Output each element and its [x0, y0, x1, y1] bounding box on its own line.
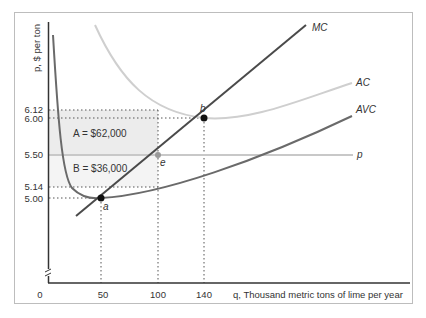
y-tick-5-14: 5.14: [25, 181, 44, 192]
x-tick-0: 0: [37, 289, 42, 300]
avc-label: AVC: [355, 104, 377, 115]
p-label: p: [356, 149, 363, 160]
point-a-label: a: [103, 201, 109, 212]
y-tick-5-00: 5.00: [25, 193, 44, 204]
x-tick-50: 50: [98, 289, 109, 300]
point-b-label: b: [200, 103, 206, 114]
y-tick-5-50: 5.50: [25, 149, 44, 160]
y-axis-title: p, $ per ton: [31, 24, 42, 72]
x-axis-title: q, Thousand metric tons of lime per year: [233, 289, 403, 300]
point-e-label: e: [160, 157, 166, 168]
x-tick-140: 140: [196, 289, 212, 300]
y-tick-6-00: 6.00: [25, 113, 44, 124]
x-tick-100: 100: [150, 289, 166, 300]
cost-curves-chart: a b e MC AC AVC p A = $62,000 B = $36,00…: [0, 0, 426, 318]
area-a-label: A = $62,000: [73, 128, 127, 139]
area-b-label: B = $36,000: [73, 163, 128, 174]
mc-label: MC: [312, 22, 328, 33]
ac-label: AC: [355, 77, 371, 88]
point-b: [201, 115, 208, 122]
